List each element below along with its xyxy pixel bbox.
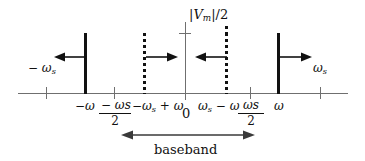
label-neg-omega-s-over-2-denominator: 2 bbox=[99, 114, 131, 128]
label-omega-s-minus-omega-main: ω bbox=[198, 99, 208, 113]
label-omega-s-over-2-num-text: ωs bbox=[243, 98, 259, 112]
label-omega-s-minus-omega-tail: − ω bbox=[212, 99, 239, 113]
label-neg-omega: −ω bbox=[75, 100, 95, 112]
amplitude-label-sub-m: m bbox=[203, 13, 211, 23]
arrow-left-from-omega-s-minus-omega bbox=[194, 50, 228, 64]
label-neg-omega-s-main: − ω bbox=[28, 61, 52, 75]
label-neg-omega-s-plus-omega-tail: + ω bbox=[156, 99, 183, 113]
label-neg-omega-s-plus-omega-main: −ω bbox=[132, 99, 152, 113]
tick-neg-omega-s bbox=[46, 87, 47, 99]
label-neg-omega-s-plus-omega: −ωs + ω bbox=[132, 100, 184, 113]
amplitude-axis-label: |Vm|/2 bbox=[189, 8, 228, 23]
label-omega-main: ω bbox=[274, 99, 284, 113]
tick-omega-s bbox=[320, 87, 321, 99]
label-omega: ω bbox=[274, 100, 284, 112]
label-omega-s: ωs bbox=[313, 62, 327, 75]
amplitude-label-over-two: /2 bbox=[216, 7, 229, 22]
frequency-axis bbox=[18, 93, 348, 94]
arrow-right-from-omega bbox=[279, 50, 313, 64]
label-origin-zero: 0 bbox=[182, 107, 190, 120]
label-omega-s-over-2: ωs 2 bbox=[238, 99, 264, 127]
baseband-span-arrow bbox=[120, 128, 256, 142]
label-omega-s-over-2-numerator: ωs bbox=[238, 99, 264, 114]
label-omega-s-main: ω bbox=[313, 61, 323, 75]
label-neg-omega-s-over-2: − ωs 2 bbox=[99, 99, 131, 127]
label-omega-s-sub: s bbox=[323, 66, 327, 76]
label-omega-s-minus-omega: ωs − ω bbox=[198, 100, 239, 113]
label-neg-omega-s-sub: s bbox=[52, 66, 56, 76]
label-omega-s-over-2-denominator: 2 bbox=[238, 114, 264, 128]
label-neg-omega-s-over-2-num-text: − ωs bbox=[101, 98, 131, 112]
arrow-right-from-neg-omega-s-plus-omega bbox=[145, 50, 179, 64]
dotted-marker-right-of-axis bbox=[225, 26, 228, 34]
baseband-label: baseband bbox=[154, 143, 217, 156]
spectrum-figure: |Vm|/2 − ωs −ω − ωs 2 −ωs + ω 0 ωs − ω ω… bbox=[0, 0, 365, 161]
label-neg-omega-main: −ω bbox=[75, 99, 95, 113]
label-neg-omega-s-over-2-numerator: − ωs bbox=[99, 99, 131, 114]
label-neg-omega-s: − ωs bbox=[28, 62, 56, 75]
amplitude-label-v: V bbox=[193, 7, 202, 22]
amplitude-axis-tick bbox=[179, 33, 191, 34]
arrow-left-from-neg-omega bbox=[54, 50, 88, 64]
